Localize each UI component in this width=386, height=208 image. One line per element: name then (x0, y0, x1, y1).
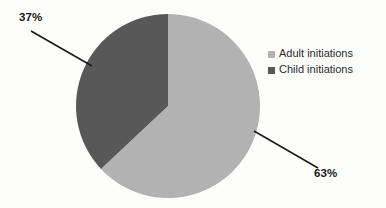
leader-line-child-initiations (31, 31, 92, 66)
data-label-child-initiations: 37% (19, 11, 42, 23)
legend-item-label: Adult initiations (279, 47, 353, 60)
data-label-adult-initiations: 63% (314, 167, 337, 179)
legend-swatch-square-icon (268, 51, 275, 58)
legend-swatch-square-icon (268, 67, 275, 74)
legend-item-label: Child initiations (279, 63, 353, 76)
legend-item-adult-initiations[interactable]: Adult initiations (268, 46, 384, 61)
pie-chart-figure: 37% 63% Adult initiations Child initiati… (0, 0, 386, 208)
chart-legend: Adult initiations Child initiations (268, 46, 384, 78)
leader-line-adult-initiations (254, 131, 318, 168)
legend-item-child-initiations[interactable]: Child initiations (268, 62, 384, 77)
